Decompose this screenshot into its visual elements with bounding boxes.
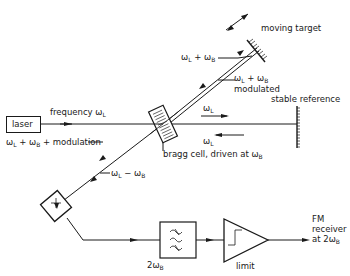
difference-frequency-label: ωL − ωB (111, 169, 145, 179)
bragg-cell-label: bragg cell, driven at ωB (163, 150, 263, 160)
limiter-amplifier (224, 219, 268, 262)
limit-label: limit (236, 262, 255, 271)
stable-reference-mirror (297, 106, 300, 148)
laser-label: laser (12, 120, 33, 129)
reference-out-label: ωL (203, 104, 213, 114)
frequency-label: frequency ωL (50, 108, 106, 118)
reference-back-label: ωL (203, 137, 213, 147)
modulated-label: modulated (234, 85, 280, 94)
modulated-return-label: ωL + ωB (234, 74, 268, 84)
arrow-icon (237, 50, 244, 56)
receiver-label-line3: at 2ωB (312, 235, 340, 245)
arrow-icon (302, 238, 310, 242)
arrow-icon (130, 238, 138, 242)
filter-label: 2ωB (147, 261, 164, 271)
receiver-label-line2: receiver (312, 225, 347, 234)
receiver-label-line1: FM (312, 215, 324, 224)
bandpass-filter (160, 222, 196, 258)
laser-box: laser (6, 116, 41, 133)
return-modulation-label: ωL + ωB + modulation (6, 138, 101, 148)
arrow-icon (206, 238, 214, 242)
arrow-icon (99, 155, 106, 161)
moving-target-label: moving target (261, 24, 321, 33)
target-beam-label: ωL + ωB (181, 53, 215, 63)
detector-to-filter (67, 218, 160, 240)
stable-reference-label: stable reference (271, 95, 340, 104)
arrow-icon (199, 83, 206, 89)
